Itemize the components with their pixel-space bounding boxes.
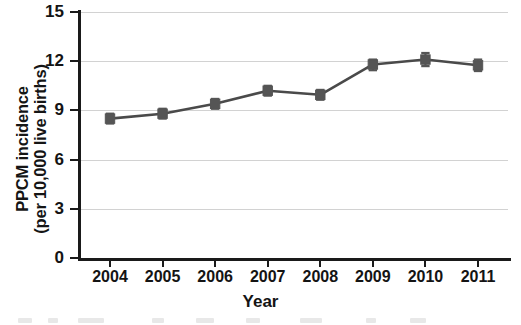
- data-point-2007: [263, 86, 272, 96]
- data-point-2011: [473, 60, 482, 71]
- data-point-2010: [421, 53, 430, 66]
- data-point-2008: [316, 90, 325, 100]
- data-point-2005: [158, 109, 167, 119]
- data-point-2009: [368, 60, 377, 71]
- data-point-2004: [105, 114, 114, 124]
- data-series-layer: [0, 0, 521, 325]
- page-edge-artifact: [0, 316, 521, 325]
- chart-figure: PPCM incidence (per 10,000 live births) …: [0, 0, 521, 325]
- data-point-2006: [210, 99, 219, 109]
- x-axis-title: Year: [0, 292, 521, 312]
